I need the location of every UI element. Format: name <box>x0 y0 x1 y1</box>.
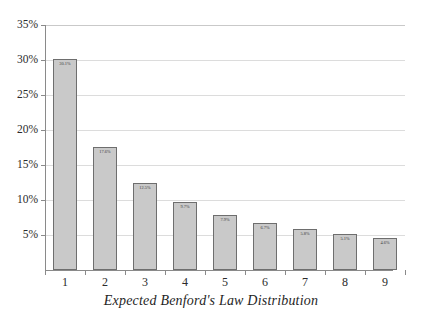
bar-value-label: 6.7% <box>254 226 276 230</box>
bar-value-label: 5.8% <box>294 232 316 236</box>
x-axis-tick <box>405 270 406 275</box>
x-axis-tick <box>325 270 326 275</box>
y-axis-tick-label: 30% <box>2 54 38 66</box>
y-axis-tick <box>41 95 46 96</box>
bar[interactable]: 6.7% <box>253 223 277 270</box>
x-axis-category-label: 3 <box>133 275 157 289</box>
x-axis-category-label: 5 <box>213 275 237 289</box>
x-axis-category-label: 9 <box>373 275 397 289</box>
y-axis-tick-label: 25% <box>2 89 38 101</box>
x-axis-tick <box>365 270 366 275</box>
chart-title: Expected Benford's Law Distribution <box>0 293 422 309</box>
bar[interactable]: 9.7% <box>173 202 197 270</box>
gridline <box>45 25 405 26</box>
x-axis-category-label: 8 <box>333 275 357 289</box>
y-axis-tick <box>41 200 46 201</box>
x-axis-category-label: 1 <box>53 275 77 289</box>
bar-value-label: 9.7% <box>174 205 196 209</box>
x-axis-tick <box>285 270 286 275</box>
x-axis-category-label: 6 <box>253 275 277 289</box>
bar[interactable]: 7.9% <box>213 215 237 270</box>
x-axis-tick <box>245 270 246 275</box>
x-axis-tick <box>85 270 86 275</box>
x-axis-tick <box>205 270 206 275</box>
y-axis-tick-label: 15% <box>2 159 38 171</box>
bar[interactable]: 12.5% <box>133 183 157 271</box>
x-axis-category-label: 4 <box>173 275 197 289</box>
gridline <box>45 60 405 61</box>
y-axis-tick-label: 35% <box>2 19 38 31</box>
benford-law-bar-chart: 35%30%25%20%15%10%5% 30.1%17.6%12.5%9.7%… <box>0 0 422 318</box>
y-axis-tick <box>41 130 46 131</box>
bar-value-label: 17.6% <box>94 150 116 154</box>
y-axis-tick <box>41 235 46 236</box>
bar[interactable]: 4.6% <box>373 238 397 270</box>
plot-area: 30.1%17.6%12.5%9.7%7.9%6.7%5.8%5.1%4.6% <box>45 25 405 270</box>
x-axis-tick <box>45 270 46 275</box>
y-axis-labels: 35%30%25%20%15%10%5% <box>0 0 38 318</box>
bar-value-label: 30.1% <box>54 62 76 66</box>
bar[interactable]: 30.1% <box>53 59 77 270</box>
bar[interactable]: 5.1% <box>333 234 357 270</box>
x-axis-line <box>45 270 393 271</box>
bar-value-label: 7.9% <box>214 218 236 222</box>
y-axis-tick-label: 5% <box>2 229 38 241</box>
gridline <box>45 130 405 131</box>
x-axis-category-label: 7 <box>293 275 317 289</box>
y-axis-tick <box>41 60 46 61</box>
y-axis-tick <box>41 165 46 166</box>
y-axis-tick-label: 20% <box>2 124 38 136</box>
y-axis-tick-label: 10% <box>2 194 38 206</box>
y-axis-tick <box>41 25 46 26</box>
gridline <box>45 95 405 96</box>
bar[interactable]: 5.8% <box>293 229 317 270</box>
x-axis-category-label: 2 <box>93 275 117 289</box>
x-axis-tick <box>165 270 166 275</box>
x-axis-tick <box>125 270 126 275</box>
bar-value-label: 12.5% <box>134 186 156 190</box>
bar-value-label: 5.1% <box>334 237 356 241</box>
bar[interactable]: 17.6% <box>93 147 117 270</box>
bar-value-label: 4.6% <box>374 241 396 245</box>
